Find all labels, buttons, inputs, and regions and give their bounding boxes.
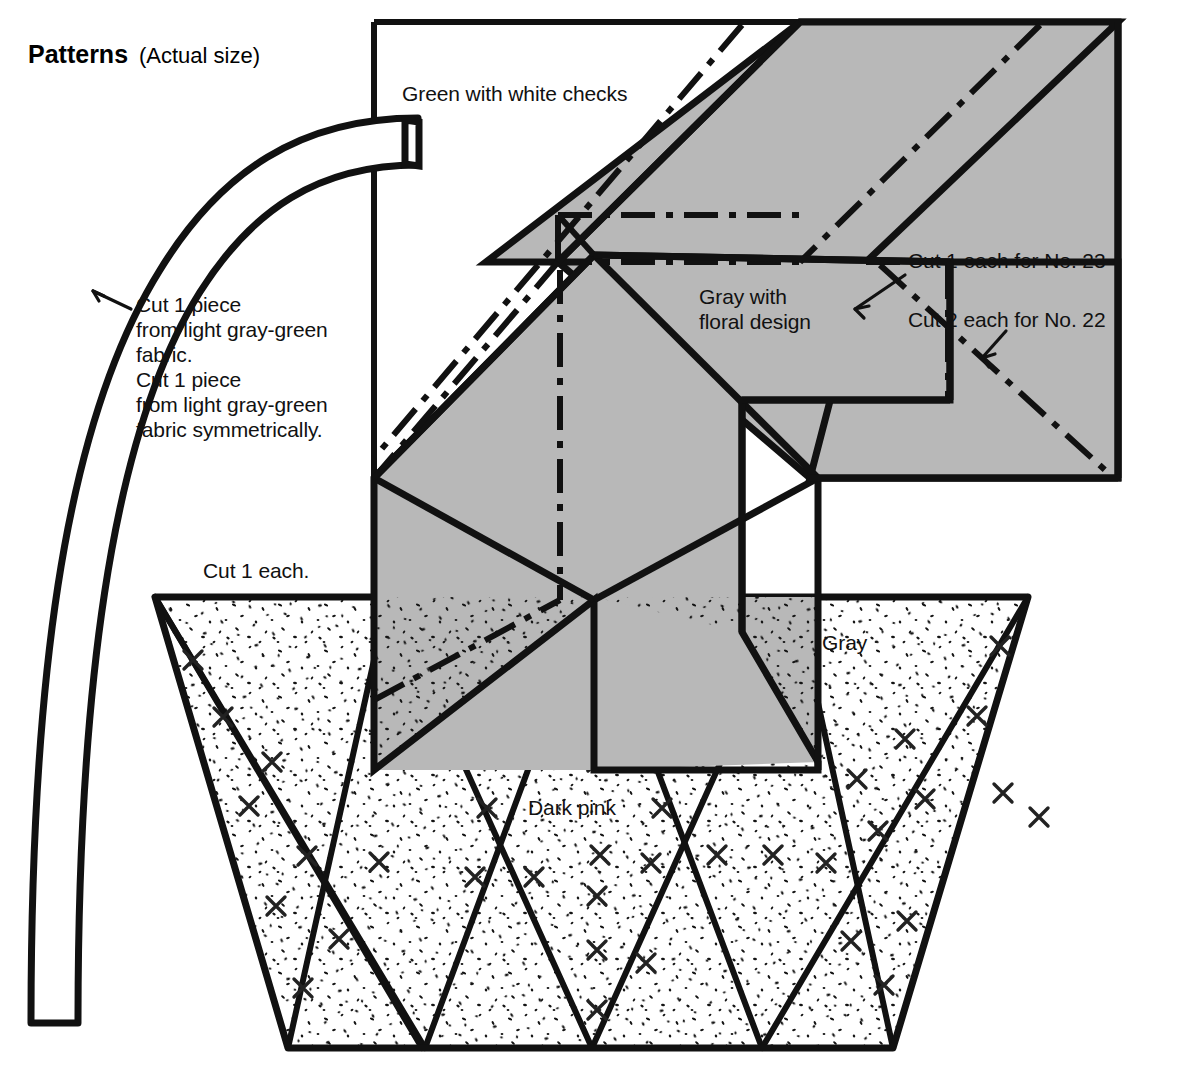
label-dark-pink: Dark pink — [528, 796, 616, 821]
handle-strip-tab — [405, 120, 419, 166]
page-title: Patterns — [28, 40, 128, 69]
label-gray-with-floral-design: Gray withfloral design — [699, 285, 811, 335]
label-gray: Gray — [822, 631, 867, 656]
label-cut-1-each-for-no-23: Cut 1 each for No. 23 — [908, 249, 1106, 274]
label-cut-1-each: Cut 1 each. — [203, 559, 309, 584]
label-green-with-white-checks: Green with white checks — [402, 82, 627, 107]
page-title-subtitle: (Actual size) — [139, 43, 260, 69]
pattern-diagram — [0, 0, 1193, 1089]
pattern-sheet: Patterns (Actual size) Green with white … — [0, 0, 1193, 1089]
label-gray-floral-line2: floral design — [699, 310, 811, 333]
label-gray-floral-line1: Gray with — [699, 285, 787, 308]
label-cut-2-each-for-no-22: Cut 2 each for No. 22 — [908, 308, 1106, 333]
label-cut-piece-instructions: Cut 1 piece from light gray-green fabric… — [136, 293, 328, 443]
